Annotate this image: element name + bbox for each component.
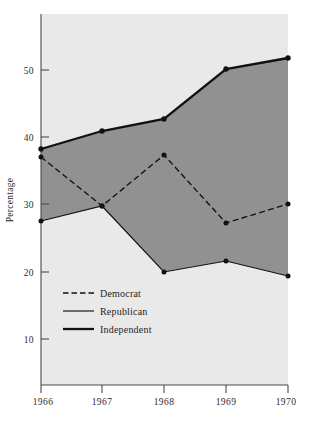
y-tick-label-10: 10 [24, 335, 34, 345]
chart-page: 50 40 30 20 10 1966 1967 1968 1969 1970 … [0, 0, 309, 426]
x-tick-label-1967: 1967 [92, 397, 113, 407]
x-tick-marks [41, 385, 288, 393]
x-tick-label-1968: 1968 [154, 397, 175, 407]
y-tick-label-40: 40 [24, 133, 34, 143]
x-tick-label-1966: 1966 [33, 397, 54, 407]
legend-label-independent: Independent [100, 324, 152, 335]
x-tick-label-1969: 1969 [216, 397, 237, 407]
line-chart: 50 40 30 20 10 1966 1967 1968 1969 1970 … [0, 0, 309, 426]
legend-label-republican: Republican [100, 306, 148, 317]
legend-label-democrat: Democrat [100, 288, 141, 299]
y-tick-label-30: 30 [24, 200, 34, 210]
y-axis-title: Percentage [5, 178, 15, 223]
y-tick-label-20: 20 [24, 268, 34, 278]
y-tick-label-50: 50 [24, 66, 34, 76]
x-tick-label-1970: 1970 [276, 397, 297, 407]
page-bleed-text [28, 414, 304, 424]
